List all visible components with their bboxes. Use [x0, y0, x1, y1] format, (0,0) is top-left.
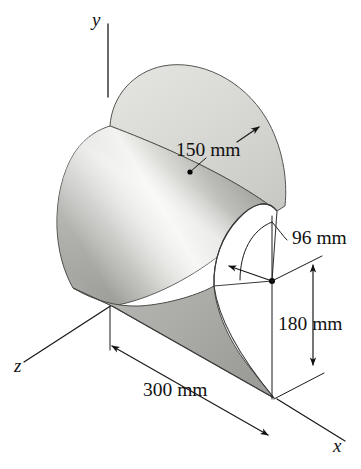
y-axis-label: y	[90, 9, 101, 30]
outer-radius-label: 150 mm	[176, 139, 240, 160]
z-axis-label: z	[13, 355, 22, 376]
height-upper-extension	[272, 256, 322, 281]
half-cylinder-shell	[57, 65, 286, 398]
z-axis-line	[24, 305, 112, 362]
inner-radius-label: 96 mm	[292, 227, 347, 248]
figure-canvas: y z x	[0, 0, 361, 469]
x-axis-label: x	[332, 435, 342, 456]
length-label: 300 mm	[143, 379, 207, 400]
dimension-height: 180 mm	[272, 256, 342, 399]
height-label: 180 mm	[278, 313, 342, 334]
engineering-diagram: y z x	[0, 0, 361, 469]
height-lower-extension	[274, 373, 324, 399]
